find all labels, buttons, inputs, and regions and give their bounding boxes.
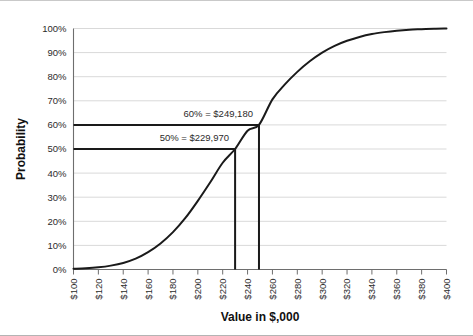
x-tick-label: $120: [93, 279, 104, 300]
x-tick-label: $140: [118, 279, 129, 300]
x-tick-label: $280: [292, 279, 303, 300]
y-tick-label: 70%: [47, 95, 67, 106]
y-tick-label: 50%: [47, 143, 67, 154]
x-tick-label: $340: [366, 279, 377, 300]
y-tick-label: 20%: [47, 216, 67, 227]
x-tick-label: $180: [167, 279, 178, 300]
y-tick-label: 0%: [53, 264, 67, 275]
y-tick-label: 40%: [47, 168, 67, 179]
annotation-60-percent: 60% = $249,180: [184, 108, 253, 119]
x-tick-label: $380: [416, 279, 427, 300]
x-tick-label: $160: [143, 279, 154, 300]
x-tick-label: $320: [341, 279, 352, 300]
y-tick-label: 80%: [47, 71, 67, 82]
x-axis-title: Value in $,000: [221, 310, 300, 324]
chart-figure: 0%10%20%30%40%50%60%70%80%90%100% $100$1…: [0, 0, 473, 336]
x-tick-label: $240: [242, 279, 253, 300]
x-tick-label: $200: [192, 279, 203, 300]
x-tick-label: $360: [391, 279, 402, 300]
annotation-50-percent: 50% = $229,970: [160, 132, 229, 143]
y-tick-label: 10%: [47, 240, 67, 251]
y-tick-label: 60%: [47, 119, 67, 130]
x-tick-label: $300: [317, 279, 328, 300]
y-tick-label: 100%: [42, 23, 67, 34]
x-tick-label: $220: [217, 279, 228, 300]
x-tick-label: $100: [68, 279, 79, 300]
y-axis-title: Probability: [14, 118, 28, 180]
cumulative-probability-chart: 0%10%20%30%40%50%60%70%80%90%100% $100$1…: [0, 1, 473, 336]
y-tick-label: 90%: [47, 47, 67, 58]
x-tick-label: $400: [441, 279, 452, 300]
y-tick-label: 30%: [47, 192, 67, 203]
x-tick-label: $260: [267, 279, 278, 300]
